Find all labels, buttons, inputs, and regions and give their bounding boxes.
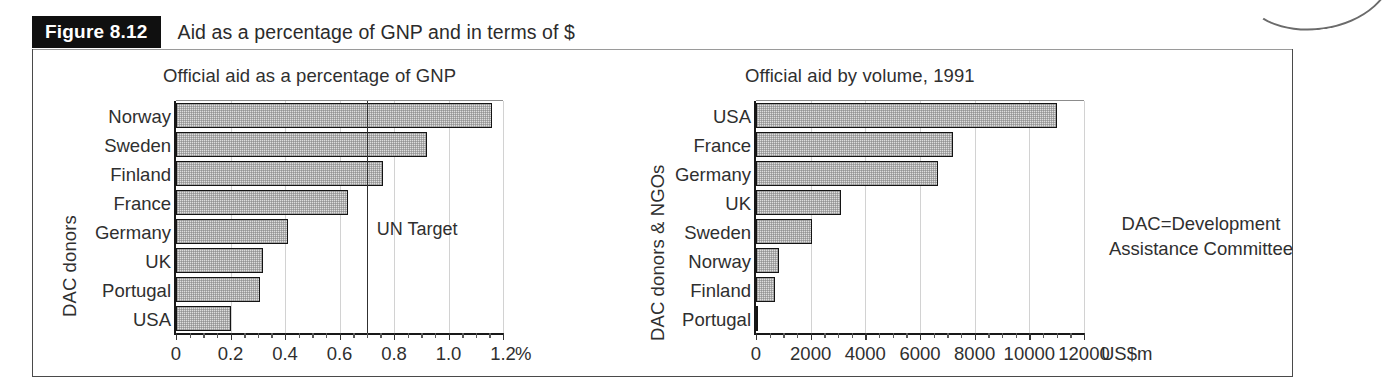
- tick-label: 0: [751, 343, 761, 365]
- tick-label: 1.2: [490, 343, 516, 365]
- gridline: [1084, 101, 1085, 333]
- tick-minor: [367, 333, 368, 338]
- category-label: France: [113, 195, 171, 214]
- category-label: Portugal: [682, 311, 751, 330]
- dac-note-line-2: Assistance Committee: [1109, 237, 1293, 262]
- tick-minor: [797, 333, 798, 338]
- tick-label: 10000: [1004, 343, 1055, 365]
- category-label: Finland: [110, 166, 171, 185]
- figure-number-tag: Figure 8.12: [32, 16, 161, 48]
- tick-label: 0.4: [272, 343, 298, 365]
- tick-minor: [380, 333, 381, 338]
- tick-minor: [489, 333, 490, 338]
- tick-minor: [838, 333, 839, 338]
- bars-left: NorwaySwedenFinlandFranceGermanyUKPortug…: [176, 101, 503, 333]
- tick-major: [1029, 333, 1030, 340]
- tick-major: [394, 333, 395, 340]
- un-target-line: [367, 101, 369, 333]
- chart-title-right: Official aid by volume, 1991: [745, 65, 975, 87]
- category-label: Portugal: [102, 282, 171, 301]
- category-label: UK: [145, 253, 171, 272]
- category-label: Norway: [688, 253, 751, 272]
- tick-major: [340, 333, 341, 340]
- chart-panel-aid-by-volume: Official aid by volume, 1991 DAC donors …: [633, 49, 1294, 377]
- bars-right: USAFranceGermanyUKSwedenNorwayFinlandPor…: [756, 101, 1084, 333]
- tick-major: [756, 333, 757, 340]
- plot-area-left: NorwaySwedenFinlandFranceGermanyUKPortug…: [174, 101, 503, 335]
- tick-minor: [312, 333, 313, 338]
- category-label: UK: [725, 195, 751, 214]
- bar: Germany: [176, 219, 288, 244]
- chart-panel-aid-percentage-gnp: Official aid as a percentage of GNP DAC …: [33, 49, 633, 377]
- category-label: Germany: [95, 224, 171, 243]
- tick-major: [811, 333, 812, 340]
- tick-minor: [190, 333, 191, 338]
- tick-minor: [271, 333, 272, 338]
- tick-label: 2000: [790, 343, 831, 365]
- category-label: Finland: [690, 282, 751, 301]
- tick-major: [449, 333, 450, 340]
- bar: Portugal: [176, 277, 260, 302]
- tick-minor: [783, 333, 784, 338]
- category-label: Sweden: [104, 137, 171, 156]
- category-label: USA: [713, 108, 751, 127]
- bar: Sweden: [176, 132, 427, 157]
- tick-minor: [934, 333, 935, 338]
- tick-minor: [408, 333, 409, 338]
- category-label: Norway: [108, 108, 171, 127]
- tick-label: 0: [171, 343, 181, 365]
- tick-minor: [476, 333, 477, 338]
- plot-area-right: USAFranceGermanyUKSwedenNorwayFinlandPor…: [754, 101, 1084, 335]
- tick-minor: [435, 333, 436, 338]
- un-target-label: UN Target: [377, 219, 458, 240]
- tick-minor: [217, 333, 218, 338]
- tick-minor: [947, 333, 948, 338]
- tick-minor: [852, 333, 853, 338]
- figure-header: Figure 8.12 Aid as a percentage of GNP a…: [32, 16, 1293, 48]
- bar: UK: [756, 190, 841, 215]
- y-axis-label-left: DAC donors: [59, 215, 81, 317]
- tick-major: [1084, 333, 1085, 340]
- tick-minor: [203, 333, 204, 338]
- tick-major: [503, 333, 504, 340]
- tick-minor: [421, 333, 422, 338]
- bar: France: [176, 190, 348, 215]
- bar: Finland: [176, 161, 383, 186]
- bar: Norway: [176, 103, 492, 128]
- y-axis-label-right: DAC donors & NGOs: [647, 165, 669, 341]
- category-label: Germany: [675, 166, 751, 185]
- bar: France: [756, 132, 953, 157]
- tick-minor: [1043, 333, 1044, 338]
- x-axis-unit-right: US$m: [1101, 343, 1152, 365]
- bar: Norway: [756, 248, 779, 273]
- bar: UK: [176, 248, 263, 273]
- tick-major: [285, 333, 286, 340]
- tick-major: [975, 333, 976, 340]
- tick-label: 0.6: [327, 343, 353, 365]
- tick-minor: [961, 333, 962, 338]
- tick-minor: [299, 333, 300, 338]
- tick-minor: [1016, 333, 1017, 338]
- tick-minor: [258, 333, 259, 338]
- bar: USA: [756, 103, 1057, 128]
- bar: Finland: [756, 277, 775, 302]
- tick-minor: [1002, 333, 1003, 338]
- tick-minor: [326, 333, 327, 338]
- tick-minor: [879, 333, 880, 338]
- bar: Portugal: [756, 306, 758, 331]
- dac-abbreviation-note: DAC=Development Assistance Committee: [1109, 212, 1293, 262]
- tick-minor: [462, 333, 463, 338]
- category-label: USA: [133, 311, 171, 330]
- gridline: [503, 101, 504, 333]
- chart-title-left: Official aid as a percentage of GNP: [163, 65, 456, 87]
- bar: Sweden: [756, 219, 812, 244]
- tick-label: 4000: [845, 343, 886, 365]
- figure-frame: Official aid as a percentage of GNP DAC …: [32, 49, 1293, 377]
- tick-minor: [770, 333, 771, 338]
- x-axis-unit-left: %: [515, 343, 531, 365]
- tick-major: [176, 333, 177, 340]
- tick-minor: [988, 333, 989, 338]
- bar: USA: [176, 306, 231, 331]
- category-label: France: [693, 137, 751, 156]
- dac-note-line-1: DAC=Development: [1109, 212, 1293, 237]
